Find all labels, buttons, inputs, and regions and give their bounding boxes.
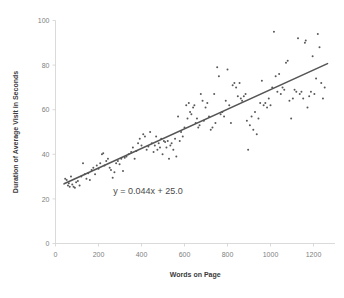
data-point (243, 95, 245, 97)
data-point (110, 169, 112, 171)
data-point (214, 122, 216, 124)
data-point (200, 93, 202, 95)
data-point (227, 69, 229, 71)
data-point (317, 33, 319, 35)
scatter-chart: 020406080100020040060080010001200y = 0.0… (0, 0, 344, 298)
data-point (146, 149, 148, 151)
data-point (92, 167, 94, 169)
data-point (177, 115, 179, 117)
x-axis-title: Words on Page (170, 271, 221, 279)
x-tick-label: 400 (136, 251, 148, 258)
data-point (310, 91, 312, 93)
data-point (179, 140, 181, 142)
data-point (156, 149, 158, 151)
data-point (172, 149, 174, 151)
data-point (158, 142, 160, 144)
data-point (287, 60, 289, 62)
data-point (205, 106, 207, 108)
data-point (313, 93, 315, 95)
data-point (162, 153, 164, 155)
data-point (169, 144, 171, 146)
data-point (297, 37, 299, 39)
data-point (319, 46, 321, 48)
data-point (199, 124, 201, 126)
data-point (299, 93, 301, 95)
data-point (294, 89, 296, 91)
data-point (102, 152, 104, 154)
data-point (155, 135, 157, 137)
data-point (193, 104, 195, 106)
data-point (213, 93, 215, 95)
data-point (239, 82, 241, 84)
equation-annotation: y = 0.044x + 25.0 (113, 186, 183, 196)
data-point (324, 86, 326, 88)
data-point (175, 156, 177, 158)
data-point (275, 75, 277, 77)
data-point (257, 118, 259, 120)
y-tick-label: 100 (38, 17, 50, 24)
data-point (290, 118, 292, 120)
data-point (107, 158, 109, 160)
data-point (185, 104, 187, 106)
data-point (210, 129, 212, 131)
data-point (159, 147, 161, 149)
x-tick-label: 0 (54, 251, 58, 258)
data-point (139, 138, 141, 140)
data-point (149, 131, 151, 133)
data-point (263, 104, 265, 106)
x-tick-label: 1000 (263, 251, 279, 258)
data-point (82, 162, 84, 164)
data-point (113, 171, 115, 173)
data-point (315, 77, 317, 79)
data-point (190, 113, 192, 115)
data-point (266, 106, 268, 108)
data-point (154, 144, 156, 146)
data-point (306, 106, 308, 108)
data-point (122, 170, 124, 172)
data-point (99, 162, 101, 164)
data-point (232, 84, 234, 86)
data-point (216, 66, 218, 68)
data-point (137, 142, 139, 144)
data-point (305, 40, 307, 42)
data-point (96, 164, 98, 166)
data-point (280, 93, 282, 95)
data-point (273, 31, 275, 33)
data-point (187, 118, 189, 120)
data-point (283, 89, 285, 91)
data-point (206, 102, 208, 104)
data-point (192, 106, 194, 108)
data-point (254, 111, 256, 113)
data-point (247, 149, 249, 151)
data-point (245, 93, 247, 95)
data-point (66, 179, 68, 181)
data-point (105, 160, 107, 162)
data-point (288, 100, 290, 102)
data-point (308, 95, 310, 97)
data-point (249, 124, 251, 126)
data-point (171, 142, 173, 144)
data-point (268, 98, 270, 100)
data-point (322, 98, 324, 100)
data-point (251, 115, 253, 117)
data-point (174, 138, 176, 140)
data-point (256, 133, 258, 135)
y-tick-label: 0 (46, 240, 50, 247)
data-point (252, 129, 254, 131)
data-point (67, 185, 69, 187)
data-point (167, 140, 169, 142)
data-point (295, 91, 297, 93)
data-point (141, 144, 143, 146)
x-tick-label: 200 (93, 251, 105, 258)
data-point (300, 91, 302, 93)
data-point (74, 187, 76, 189)
data-point (225, 100, 227, 102)
data-point (223, 115, 225, 117)
data-point (196, 118, 198, 120)
data-point (153, 151, 155, 153)
data-point (119, 163, 121, 165)
data-point (165, 147, 167, 149)
data-point (189, 111, 191, 113)
data-point (197, 127, 199, 129)
y-tick-label: 60 (42, 106, 50, 113)
